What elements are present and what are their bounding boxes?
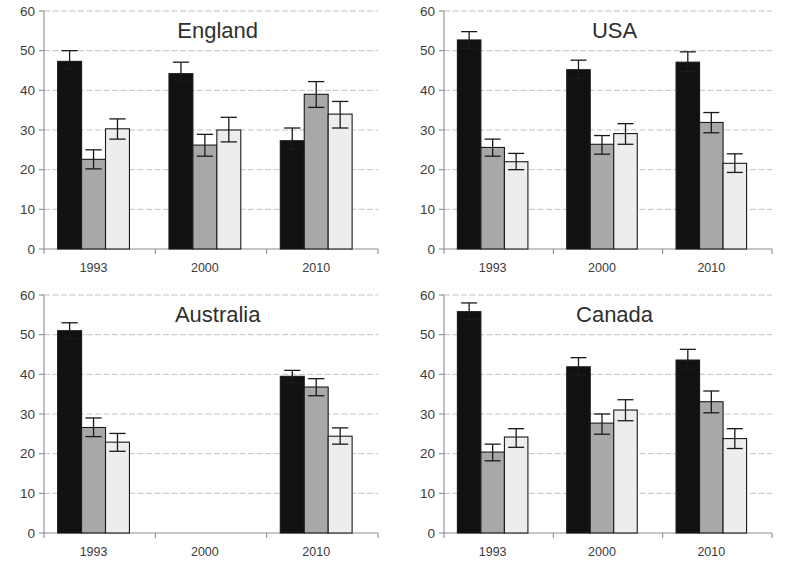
y-tick-label: 10: [420, 202, 435, 217]
y-tick-label: 20: [420, 162, 435, 177]
x-tick-label: 2010: [697, 545, 725, 559]
bar: [457, 40, 481, 249]
x-tick-label: 2000: [588, 545, 616, 559]
x-tick-label: 1993: [479, 545, 507, 559]
y-tick-label: 60: [420, 4, 435, 19]
x-tick-label: 2000: [191, 261, 219, 275]
bar: [614, 410, 638, 533]
bar: [723, 163, 747, 249]
bar: [58, 331, 82, 533]
y-tick-label: 0: [427, 242, 435, 257]
bar: [304, 94, 328, 249]
x-tick-label: 1993: [479, 261, 507, 275]
bar: [328, 436, 352, 533]
bar: [567, 367, 591, 533]
y-tick-label: 50: [420, 43, 435, 58]
y-tick-label: 50: [20, 327, 35, 342]
bar: [82, 427, 106, 533]
y-tick-label: 30: [420, 123, 435, 138]
bar: [676, 360, 700, 533]
panel-title: Australia: [175, 302, 261, 327]
chart-canada: 0102030405060199320002010Canada: [400, 284, 794, 568]
y-tick-label: 20: [420, 446, 435, 461]
bar: [481, 452, 505, 533]
bar: [457, 312, 481, 533]
bar: [567, 70, 591, 249]
bar: [217, 130, 241, 249]
bar: [304, 387, 328, 533]
panel-england: 0102030405060199320002010England: [0, 0, 400, 284]
bar: [590, 144, 614, 249]
y-tick-label: 10: [20, 486, 35, 501]
y-tick-label: 40: [420, 367, 435, 382]
chart-australia: 0102030405060199320002010Australia: [0, 284, 400, 568]
bar: [676, 62, 700, 249]
panel-usa: 0102030405060199320002010USA: [400, 0, 794, 284]
y-tick-label: 30: [20, 407, 35, 422]
panel-title: England: [177, 18, 258, 43]
y-tick-label: 60: [20, 288, 35, 303]
chart-usa: 0102030405060199320002010USA: [400, 0, 794, 284]
bar: [328, 114, 352, 249]
bar: [590, 423, 614, 533]
x-tick-label: 2000: [191, 545, 219, 559]
bar: [280, 376, 304, 533]
bar: [58, 61, 82, 249]
panel-australia: 0102030405060199320002010Australia: [0, 284, 400, 568]
bar: [504, 437, 528, 533]
y-tick-label: 10: [420, 486, 435, 501]
bar: [169, 74, 193, 249]
y-tick-label: 20: [20, 446, 35, 461]
bar: [193, 145, 217, 249]
y-tick-label: 60: [20, 4, 35, 19]
bar: [280, 141, 304, 249]
y-tick-label: 0: [427, 526, 435, 541]
bar: [614, 134, 638, 249]
bar: [106, 129, 130, 249]
bar: [723, 439, 747, 533]
x-tick-label: 2000: [588, 261, 616, 275]
y-tick-label: 40: [420, 83, 435, 98]
x-tick-label: 2010: [697, 261, 725, 275]
y-tick-label: 40: [20, 367, 35, 382]
bar: [700, 122, 724, 249]
bar: [82, 159, 106, 249]
y-tick-label: 60: [420, 288, 435, 303]
x-tick-label: 1993: [80, 261, 108, 275]
bar: [481, 147, 505, 249]
y-tick-label: 40: [20, 83, 35, 98]
x-tick-label: 2010: [302, 545, 330, 559]
x-tick-label: 2010: [302, 261, 330, 275]
panel-title: Canada: [576, 302, 654, 327]
panel-title: USA: [592, 18, 638, 43]
bar: [106, 442, 130, 533]
y-tick-label: 30: [20, 123, 35, 138]
x-tick-label: 1993: [80, 545, 108, 559]
panel-canada: 0102030405060199320002010Canada: [400, 284, 794, 568]
chart-england: 0102030405060199320002010England: [0, 0, 400, 284]
y-tick-label: 0: [27, 242, 35, 257]
bar: [504, 162, 528, 249]
y-tick-label: 0: [27, 526, 35, 541]
bar: [700, 402, 724, 533]
figure-grid: 0102030405060199320002010England 0102030…: [0, 0, 794, 568]
y-tick-label: 10: [20, 202, 35, 217]
y-tick-label: 50: [420, 327, 435, 342]
y-tick-label: 50: [20, 43, 35, 58]
y-tick-label: 20: [20, 162, 35, 177]
y-tick-label: 30: [420, 407, 435, 422]
